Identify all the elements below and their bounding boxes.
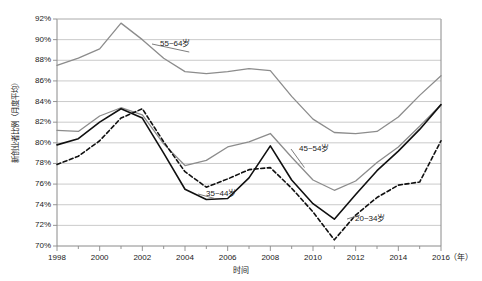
x-axis-tick-label: 2012	[336, 254, 376, 262]
y-axis-tick-label: 78%	[15, 159, 51, 167]
x-axis-tick-label: 1998	[37, 254, 77, 262]
chart-container: 新创业者比例（月度平均） 时间 70%72%74%76%78%80%82%84%…	[0, 0, 482, 281]
x-axis-title: 时间	[0, 264, 482, 275]
x-axis-unit-label: （年）	[449, 254, 473, 262]
x-axis-tick-label: 2000	[80, 254, 120, 262]
x-axis-tick-label: 2010	[293, 254, 333, 262]
x-axis-tick-label: 2002	[122, 254, 162, 262]
y-axis-tick-label: 82%	[15, 118, 51, 126]
y-axis-tick-label: 74%	[15, 201, 51, 209]
line-chart-plot	[0, 0, 482, 281]
series-label-2: 45~54岁	[299, 145, 329, 153]
y-axis-tick-label: 72%	[15, 221, 51, 229]
x-axis-tick-label: 2014	[378, 254, 418, 262]
y-axis-tick-label: 80%	[15, 139, 51, 147]
y-axis-tick-label: 84%	[15, 98, 51, 106]
series-label-3: 35~44岁	[206, 190, 236, 198]
y-axis-tick-label: 92%	[15, 15, 51, 23]
y-axis-tick-label: 90%	[15, 36, 51, 44]
y-axis-tick-label: 86%	[15, 77, 51, 85]
y-axis-tick-label: 70%	[15, 242, 51, 250]
y-axis-tick-label: 88%	[15, 56, 51, 64]
x-axis-tick-label: 2004	[165, 254, 205, 262]
x-axis-tick-label: 2006	[208, 254, 248, 262]
series-label-1: 55~64岁	[160, 40, 190, 48]
y-axis-tick-label: 76%	[15, 180, 51, 188]
series-label-4: 20~34岁	[355, 215, 385, 223]
x-axis-tick-label: 2008	[250, 254, 290, 262]
